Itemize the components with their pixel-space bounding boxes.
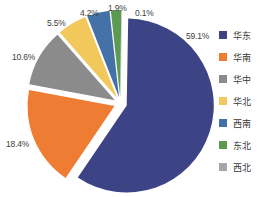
slice-label-huadong: 59.1% bbox=[186, 31, 209, 41]
legend-swatch-icon bbox=[219, 163, 227, 171]
slice-label-dongbei: 1.9% bbox=[108, 3, 127, 13]
legend-item-huabei[interactable]: 华北 bbox=[215, 90, 271, 112]
slice-label-huazhong: 10.6% bbox=[12, 52, 35, 62]
legend: 华东 华南 华中 华北 西南 东北 西北 bbox=[215, 24, 271, 178]
pie-chart: 59.1% 18.4% 10.6% 5.5% 4.2% 1.9% 0.1% 华东… bbox=[0, 0, 273, 197]
slice-label-xibei: 0.1% bbox=[135, 8, 154, 18]
legend-label: 华北 bbox=[233, 95, 251, 108]
legend-item-huadong[interactable]: 华东 bbox=[215, 24, 271, 46]
slice-label-xinan: 4.2% bbox=[80, 8, 99, 18]
legend-item-huazhong[interactable]: 华中 bbox=[215, 68, 271, 90]
pie-svg bbox=[0, 0, 225, 197]
slice-label-huabei: 5.5% bbox=[47, 18, 66, 28]
legend-item-dongbei[interactable]: 东北 bbox=[215, 134, 271, 156]
legend-label: 东北 bbox=[233, 139, 251, 152]
legend-label: 华东 bbox=[233, 29, 251, 42]
legend-swatch-icon bbox=[219, 75, 227, 83]
legend-item-xinan[interactable]: 西南 bbox=[215, 112, 271, 134]
legend-swatch-icon bbox=[219, 141, 227, 149]
slice-label-huanan: 18.4% bbox=[6, 139, 29, 149]
legend-item-huanan[interactable]: 华南 bbox=[215, 46, 271, 68]
legend-swatch-icon bbox=[219, 53, 227, 61]
legend-label: 西北 bbox=[233, 161, 251, 174]
legend-swatch-icon bbox=[219, 119, 227, 127]
legend-label: 华南 bbox=[233, 51, 251, 64]
legend-swatch-icon bbox=[219, 97, 227, 105]
legend-item-xibei[interactable]: 西北 bbox=[215, 156, 271, 178]
legend-label: 西南 bbox=[233, 117, 251, 130]
legend-label: 华中 bbox=[233, 73, 251, 86]
legend-swatch-icon bbox=[219, 31, 227, 39]
